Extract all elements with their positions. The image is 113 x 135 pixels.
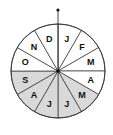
sector-label: M (78, 90, 86, 100)
sector-label: A (31, 90, 38, 100)
center-dot (56, 69, 60, 73)
sector-label: A (87, 75, 94, 85)
sector-label: F (79, 42, 85, 52)
sector-label: J (64, 34, 69, 44)
sector-label: O (22, 57, 29, 67)
sector-label: N (31, 42, 38, 52)
sector-label: D (46, 34, 53, 44)
sector-label: J (47, 99, 52, 109)
sector-label: M (87, 57, 95, 67)
sector-label: J (64, 99, 69, 109)
sector-label: S (22, 75, 28, 85)
month-wheel: JFMAMJJASOND (0, 0, 113, 135)
pointer-dot (56, 8, 59, 11)
